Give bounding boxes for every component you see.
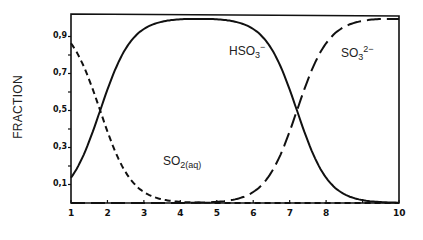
y-tick-label: 0,5	[53, 105, 67, 114]
x-tick-label: 8	[323, 208, 329, 218]
y-axis-label: FRACTION	[11, 75, 25, 139]
y-tick-label: 0,9	[53, 31, 67, 40]
x-tick-label: 3	[141, 208, 147, 218]
label-hso3: HSO3−	[229, 42, 265, 60]
series-so2-aq-	[71, 43, 399, 203]
x-tick-label: 2	[104, 208, 110, 218]
x-tick-label: 5	[214, 208, 220, 218]
x-tick-label: 10	[393, 208, 406, 218]
x-tick-label: 4	[177, 208, 183, 218]
label-so3: SO32−	[341, 44, 374, 62]
label-so2aq: SO2(aq)	[163, 154, 201, 170]
x-tick-label: 1	[68, 208, 74, 218]
x-tick-label: 7	[287, 208, 293, 218]
y-tick-label: 0,3	[53, 142, 67, 151]
y-tick-label: 0,1	[53, 179, 67, 188]
y-tick-label: 0,7	[53, 68, 67, 77]
x-tick-label: 6	[250, 208, 256, 218]
